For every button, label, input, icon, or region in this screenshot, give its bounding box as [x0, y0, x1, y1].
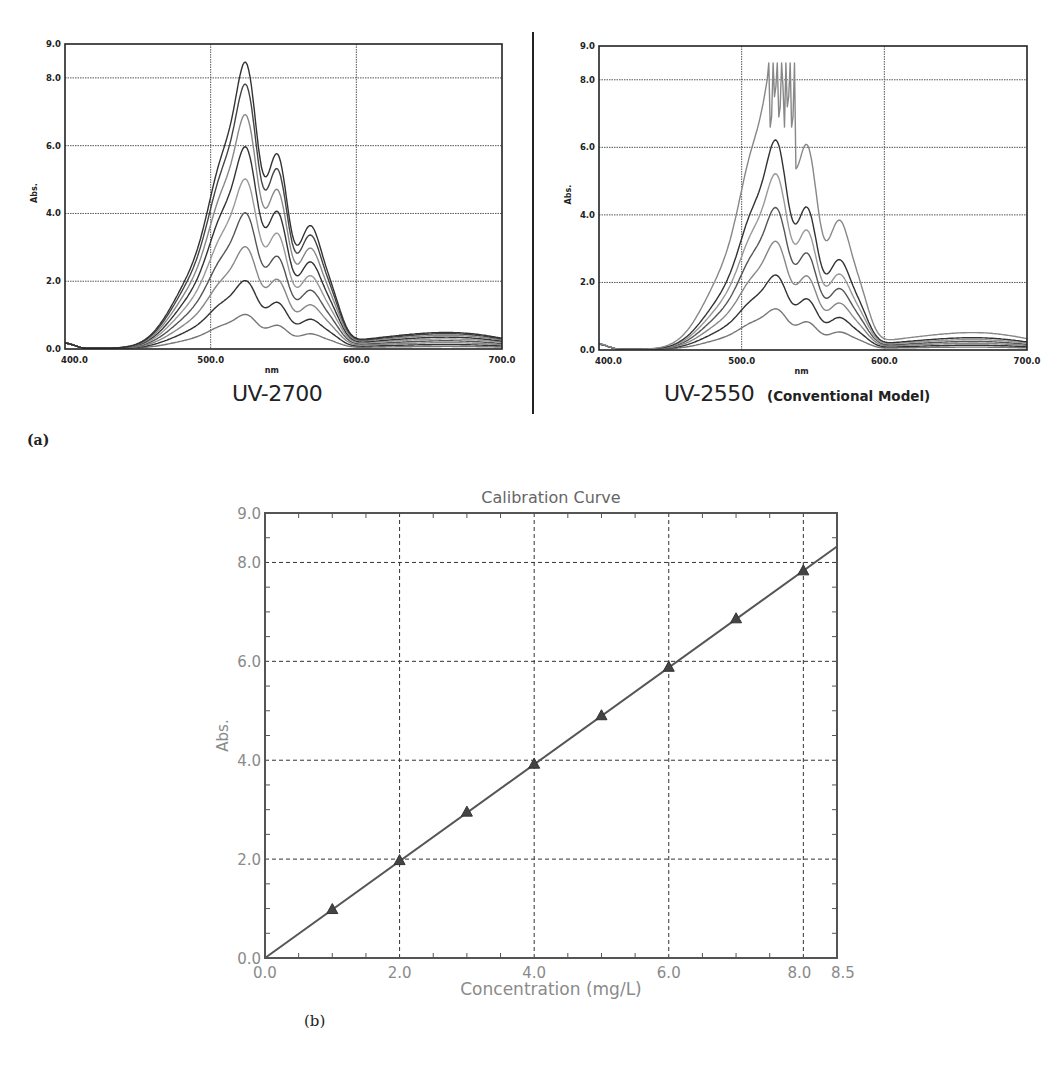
data-point-marker — [663, 661, 674, 671]
y-tick-label: 8.0 — [237, 554, 261, 572]
calibration-title: Calibration Curve — [481, 488, 620, 507]
panel-label-b: (b) — [304, 1012, 325, 1030]
x-tick-label: 8.5 — [831, 964, 855, 982]
data-point-marker — [529, 758, 540, 768]
data-point-marker — [327, 904, 338, 914]
y-tick-label: 6.0 — [237, 653, 261, 671]
y-tick-label: 2.0 — [237, 851, 261, 869]
x-tick-label: 6.0 — [657, 964, 681, 982]
data-point-marker — [731, 613, 742, 623]
y-axis-label: Abs. — [214, 719, 232, 751]
data-point-marker — [596, 710, 607, 720]
x-tick-label: 2.0 — [388, 964, 412, 982]
x-tick-label: 0.0 — [253, 964, 277, 982]
calibration-plot: 0.02.04.06.08.09.00.02.04.06.08.08.5Cali… — [0, 0, 1058, 1066]
data-point-marker — [798, 565, 809, 575]
y-tick-label: 9.0 — [237, 505, 261, 523]
x-axis-label: Concentration (mg/L) — [460, 979, 641, 999]
y-tick-label: 4.0 — [237, 752, 261, 770]
x-tick-label: 8.0 — [787, 964, 811, 982]
